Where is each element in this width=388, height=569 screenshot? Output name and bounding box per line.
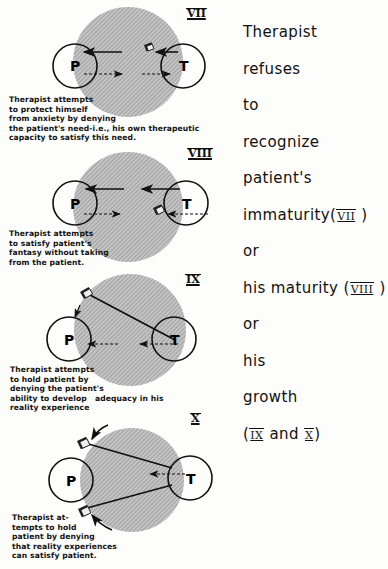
patient-label: P: [66, 473, 76, 489]
numeral-ix: IX: [185, 274, 201, 285]
caption-line: ability to develop adequacy in his: [10, 394, 164, 404]
panel-x: P T X Therapist at- tempts to hold patie…: [0, 405, 230, 569]
caption-line: patient by denying: [12, 532, 117, 542]
numeral-ref: IX: [249, 428, 264, 442]
summary-word: ): [374, 279, 385, 297]
caption-line: to satisfy patient's: [9, 239, 109, 249]
caption-line: Therapist at-: [12, 513, 117, 523]
caption-line: Therapist attempts: [9, 95, 199, 105]
therapist-label: T: [179, 58, 189, 74]
summary-word: ): [314, 425, 320, 443]
caption-line: to protect himself: [9, 105, 199, 115]
summary-word: and: [264, 425, 304, 443]
caption-viii: Therapist attempts to satisfy patient's …: [9, 229, 109, 267]
caption-line: from the patient.: [9, 258, 109, 268]
caption-line: can satisfy patient.: [12, 551, 117, 561]
patient-label: P: [64, 332, 74, 348]
numeral-vii: VII: [186, 8, 207, 19]
caption-line: fantasy without taking: [9, 248, 109, 258]
panel-viii: P T VIII Therapist attempts to satisfy p…: [0, 145, 230, 270]
summary-line: his: [243, 343, 383, 380]
box-icon: [77, 437, 90, 449]
panel-ix: P T IX Therapist attempts to hold patien…: [0, 270, 230, 405]
patient-label: P: [70, 196, 80, 212]
caption-line: Therapist attempts: [10, 365, 164, 375]
summary-line: recognize: [243, 124, 383, 161]
caption-line: denying the patient's: [10, 384, 164, 394]
caption-line: Therapist attempts: [9, 229, 109, 239]
caption-line: from anxiety by denying: [9, 114, 199, 124]
patient-label: P: [70, 58, 80, 74]
therapist-label: T: [182, 196, 192, 212]
numeral-viii: VIII: [187, 148, 213, 159]
caption-x: Therapist at- tempts to hold patient by …: [12, 513, 117, 561]
caption-vii: Therapist attempts to protect himself fr…: [9, 95, 199, 143]
panel-vii: P T VII Therapist attempts to protect hi…: [0, 0, 230, 145]
summary-word: ): [356, 206, 367, 224]
caption-line: the patient's need-i.e., his own therape…: [9, 124, 199, 134]
summary-line: immaturity(VII ): [243, 197, 383, 234]
summary-line: to: [243, 87, 383, 124]
summary-line: his maturity (VIII ): [243, 270, 383, 307]
numeral-ref: VIII: [350, 282, 375, 296]
summary-line: or: [243, 233, 383, 270]
summary-line: growth: [243, 379, 383, 416]
therapist-label: T: [170, 332, 180, 348]
caption-line: that reality experiences: [12, 542, 117, 552]
therapist-label: T: [186, 471, 196, 487]
numeral-ref: VII: [336, 209, 356, 223]
summary-word: his maturity (: [243, 279, 350, 297]
caption-line: capacity to satisfy this need.: [9, 133, 199, 143]
summary-line: Therapist: [243, 14, 383, 51]
summary-line: patient's: [243, 160, 383, 197]
summary-line: (IX and X): [243, 416, 383, 453]
caption-line: to hold patient by: [10, 375, 164, 385]
summary-text: Therapist refuses to recognize patient's…: [243, 14, 383, 452]
numeral-x: X: [190, 413, 201, 424]
summary-word: immaturity(: [243, 206, 336, 224]
numeral-ref: X: [304, 428, 314, 442]
summary-line: or: [243, 306, 383, 343]
summary-line: refuses: [243, 51, 383, 88]
caption-line: tempts to hold: [12, 523, 117, 533]
